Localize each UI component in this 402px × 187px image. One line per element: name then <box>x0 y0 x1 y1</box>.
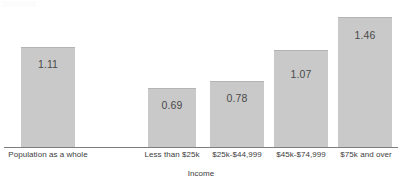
bar-chart: 1.11 0.69 0.78 1.07 1.46 Population as a… <box>0 0 402 187</box>
x-axis-title: Income <box>0 169 402 178</box>
bar-value-label: 0.78 <box>210 93 264 104</box>
bar[interactable] <box>148 88 196 148</box>
bar-group-1: 0.69 <box>148 88 196 148</box>
bar-group-3: 1.07 <box>274 50 328 148</box>
bar-value-label: 1.46 <box>338 30 392 41</box>
x-tick-label-less-than-25k: Less than $25k <box>140 151 204 160</box>
bar-value-label: 1.11 <box>21 59 75 70</box>
bar-group-4: 1.46 <box>338 17 392 148</box>
x-axis-line <box>4 147 398 148</box>
bar-value-label: 0.69 <box>148 100 196 111</box>
x-tick-label-45k-74999: $45k-$74,999 <box>270 151 332 160</box>
bar-group-2: 0.78 <box>210 81 264 148</box>
bar-value-label: 1.07 <box>274 69 328 80</box>
x-tick-label-75k-and-over: $75k and over <box>334 151 398 160</box>
plot-area: 1.11 0.69 0.78 1.07 1.46 <box>0 0 402 148</box>
bar[interactable] <box>274 50 328 148</box>
x-tick-label-25k-44999: $25k-$44,999 <box>206 151 268 160</box>
x-tick-label-population-as-a-whole: Population as a whole <box>4 151 92 160</box>
bar-group-0: 1.11 <box>21 47 75 148</box>
